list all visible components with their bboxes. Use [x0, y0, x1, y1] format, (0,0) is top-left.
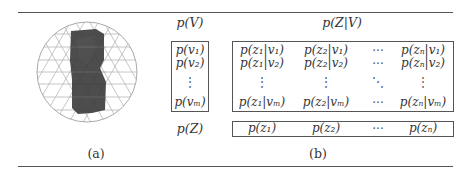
pzv-cell: p(z₁|v₂)	[240, 57, 284, 70]
pz-cell: p(z₁)	[248, 122, 276, 135]
pzv-vdots: ⋮	[320, 76, 332, 88]
pv-cell: p(vₘ)	[174, 96, 205, 109]
label-p-v: p(V)	[177, 16, 204, 30]
pzv-ddots: ⋱	[372, 76, 384, 88]
sphere-with-3d-object-icon	[0, 0, 180, 140]
pz-cell: p(z₂)	[312, 122, 340, 135]
pzv-hdots: ···	[372, 58, 383, 70]
caption-a: (a)	[87, 147, 104, 161]
pzv-cell: p(z₁|vₘ)	[239, 96, 285, 109]
pv-cell: p(v₂)	[176, 57, 205, 70]
pzv-cell: p(z₂|v₂)	[304, 57, 348, 70]
pv-vdots: ⋮	[184, 76, 196, 88]
bottom-rule	[18, 166, 453, 167]
pzv-vdots: ⋮	[417, 76, 429, 88]
caption-b: (b)	[309, 147, 327, 161]
label-p-z: p(Z)	[177, 122, 203, 136]
pzv-vdots: ⋮	[256, 76, 268, 88]
pzv-cell: p(z₂|vₘ)	[303, 96, 349, 109]
pzv-hdots: ···	[372, 45, 383, 57]
pz-cell: p(zₙ)	[409, 122, 437, 135]
pzv-cell: p(zₙ|v₂)	[401, 57, 445, 70]
pz-hdots: ···	[372, 123, 383, 135]
pzv-hdots: ···	[372, 97, 383, 109]
pzv-cell: p(zₙ|vₘ)	[400, 96, 446, 109]
label-p-z-given-v: p(Z|V)	[322, 16, 362, 30]
